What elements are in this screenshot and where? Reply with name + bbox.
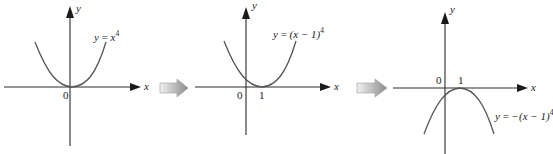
panel-3-tick-label-1: 1 — [458, 75, 464, 86]
panel-3-origin-label: 0 — [436, 75, 442, 86]
panel-1-graph — [4, 6, 141, 146]
equation-exponent: 4 — [320, 26, 324, 35]
equation-equals: = — [503, 110, 509, 122]
panel-3-x-axis-label: x — [531, 82, 536, 93]
panel-2-origin-label: 0 — [237, 90, 243, 101]
panel-2-x-axis-label: x — [334, 81, 339, 92]
equation-base: −(x − 1) — [512, 110, 550, 122]
panel-1-y-axis-arrowhead-icon — [66, 6, 74, 18]
equation-lhs: y — [94, 31, 99, 43]
panel-2-equation: y = (x − 1)4 — [273, 27, 324, 40]
equation-base: (x − 1) — [290, 28, 321, 40]
panel-1-x-axis-label: x — [144, 81, 149, 92]
equation-exponent: 4 — [116, 29, 120, 38]
equation-lhs: y — [495, 110, 500, 122]
equation-equals: = — [281, 28, 287, 40]
transition-arrow-2 — [357, 79, 387, 97]
equation-equals: = — [102, 31, 108, 43]
panel-3-curve — [424, 88, 494, 134]
block-arrow-right-icon — [160, 79, 188, 97]
panel-2-curve — [224, 41, 296, 87]
transition-arrow-1 — [160, 79, 188, 97]
panel-1-y-axis-label: y — [76, 3, 81, 14]
panel-3-y-axis-arrowhead-icon — [441, 12, 449, 24]
panel-3-x-axis-arrowhead-icon — [517, 84, 528, 92]
panel-3-equation: y = −(x − 1)4 — [495, 109, 553, 122]
panel-1-x-axis-arrowhead-icon — [130, 83, 141, 91]
panel-2-y-axis-arrowhead-icon — [242, 7, 250, 19]
panel-3-y-axis-label: y — [450, 4, 455, 15]
panel-2-tick-label-1: 1 — [259, 90, 265, 101]
block-arrow-right-icon — [357, 79, 387, 97]
panel-1-origin-label: 0 — [63, 90, 69, 101]
equation-lhs: y — [273, 28, 278, 40]
panel-1-equation: y = x4 — [94, 30, 119, 43]
panel-2-y-axis-label: y — [252, 0, 257, 11]
panel-2-x-axis-arrowhead-icon — [320, 83, 331, 91]
